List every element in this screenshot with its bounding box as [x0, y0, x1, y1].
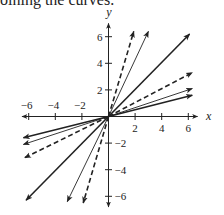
x-tick-label: 4 [159, 122, 165, 134]
series-group [23, 31, 192, 203]
vector-shallow-bold-down [23, 117, 108, 138]
vector-plot: −6−4−2246642−2−4−6xy [0, 0, 224, 215]
vector-shallow-dashed-down [25, 117, 109, 158]
y-tick-label: 4 [97, 57, 103, 69]
vector-shallow-dashed-up [109, 73, 193, 117]
x-axis-label: x [205, 109, 212, 123]
x-tick-label: 6 [186, 122, 192, 134]
y-tick-label: −4 [115, 164, 127, 176]
x-tick-label: −6 [21, 99, 33, 111]
y-tick-label: −2 [115, 137, 127, 149]
y-axis-label: y [105, 5, 112, 19]
vector-shallow-thin-up [109, 89, 193, 117]
vector-shallow-bold-up [109, 95, 193, 116]
y-tick-label: 6 [97, 31, 103, 43]
x-tick-label: −4 [47, 99, 59, 111]
x-tick-label: −2 [74, 99, 86, 111]
vector-steep-thin-up [109, 31, 149, 116]
y-tick-label: −6 [115, 190, 127, 202]
y-tick-label: 2 [97, 84, 103, 96]
x-tick-label: 2 [132, 122, 138, 134]
